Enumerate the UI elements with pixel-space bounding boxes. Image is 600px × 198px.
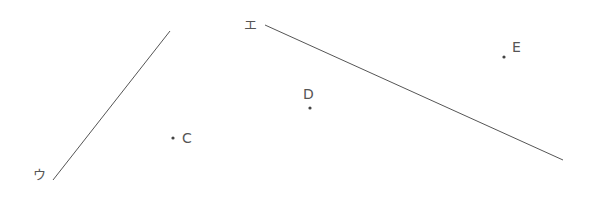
line-e-label: エ [244, 17, 257, 32]
line-u-label: ウ [33, 167, 46, 182]
line-u [53, 31, 170, 180]
geometry-diagram: ウ エ C D E [0, 0, 600, 198]
point-d-label: D [303, 86, 314, 102]
diagram-svg: ウ エ C D E [0, 0, 600, 198]
point-e-label: E [512, 39, 521, 55]
point-d-dot [308, 106, 311, 109]
point-e-dot [502, 55, 505, 58]
point-c-dot [171, 136, 174, 139]
point-c-label: C [182, 130, 192, 146]
